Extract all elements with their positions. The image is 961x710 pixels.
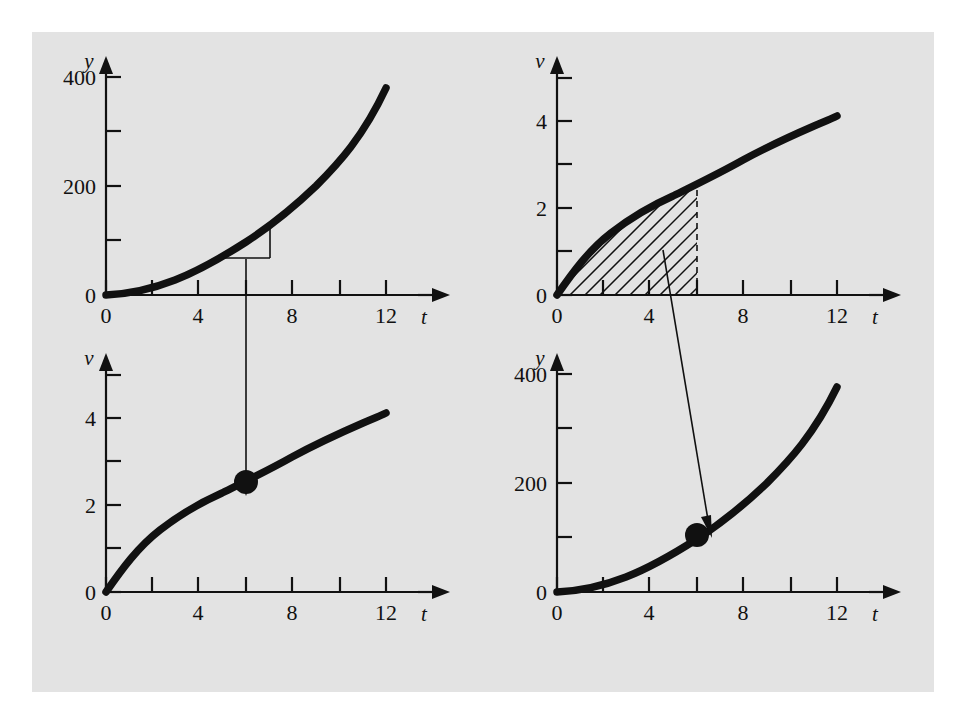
data-point-marker	[234, 470, 258, 494]
chart-b-top-svg: 0 4 8 12 0 2 4 t v	[483, 32, 934, 332]
y-tick-label-200: 200	[514, 471, 547, 496]
y-ticks-b-top	[557, 78, 572, 295]
y-tick-label-0: 0	[536, 580, 547, 605]
chart-panel-a-top: 0 4 8 12 0 200 400 t y	[32, 32, 483, 332]
y-tick-label-4: 4	[85, 406, 96, 431]
axes-b-top	[550, 56, 901, 302]
data-point-marker	[685, 523, 709, 547]
y-tick-label-2: 2	[85, 493, 96, 518]
y-tick-label-200: 200	[63, 174, 96, 199]
figure-plate: 0 4 8 12 0 200 400 t y	[32, 32, 934, 692]
chart-a-top-svg: 0 4 8 12 0 200 400 t y	[32, 32, 483, 332]
x-axis-arrowhead	[883, 585, 901, 599]
x-axis-arrowhead	[883, 288, 901, 302]
y-axis-arrowhead	[99, 56, 113, 74]
x-axis-arrowhead	[432, 585, 450, 599]
chart-panel-a-bottom: 0 4 8 12 0 2 4 t v (a)	[32, 324, 483, 654]
y-tick-label-0: 0	[85, 283, 96, 308]
axes-a-bottom	[99, 353, 450, 599]
x-tick-label-8: 8	[738, 600, 749, 625]
chart-panel-b-bottom: 0 4 8 12 0 200 400 t y (b)	[483, 324, 934, 654]
data-curve-y	[557, 387, 837, 592]
x-tick-label-4: 4	[193, 600, 204, 625]
y-axis-arrowhead	[99, 353, 113, 371]
x-ticks-a-bottom	[106, 577, 386, 592]
x-tick-label-12: 12	[826, 600, 848, 625]
y-ticks-a-top	[106, 77, 121, 295]
axes-a-top	[99, 56, 450, 302]
x-tick-label-8: 8	[287, 600, 298, 625]
figure-root: 0 4 8 12 0 200 400 t y	[0, 0, 961, 710]
y-axis-arrowhead	[550, 353, 564, 371]
y-axis-label: y	[533, 346, 545, 370]
x-tick-label-0: 0	[552, 600, 563, 625]
y-axis-label: v	[84, 346, 94, 370]
y-tick-label-0: 0	[85, 580, 96, 605]
y-ticks-b-bottom	[557, 374, 572, 592]
axes-b-bottom	[550, 353, 901, 599]
x-tick-label-12: 12	[375, 600, 397, 625]
x-axis-arrowhead	[432, 288, 450, 302]
y-tick-label-0: 0	[536, 283, 547, 308]
chart-panel-b-top: 0 4 8 12 0 2 4 t v	[483, 32, 934, 332]
chart-a-bottom-svg: 0 4 8 12 0 2 4 t v	[32, 324, 483, 654]
y-tick-label-4: 4	[536, 109, 547, 134]
y-ticks-a-bottom	[106, 375, 121, 592]
data-curve-v	[106, 413, 386, 592]
y-tick-label-2: 2	[536, 196, 547, 221]
x-axis-label: t	[421, 602, 428, 626]
y-axis-label: v	[535, 49, 545, 73]
x-tick-label-0: 0	[101, 600, 112, 625]
y-axis-label: y	[82, 49, 94, 73]
x-tick-label-4: 4	[644, 600, 655, 625]
shaded-area-hatch	[443, 132, 883, 332]
chart-b-bottom-svg: 0 4 8 12 0 200 400 t y	[483, 324, 934, 654]
y-axis-arrowhead	[550, 56, 564, 74]
x-axis-label: t	[872, 602, 879, 626]
